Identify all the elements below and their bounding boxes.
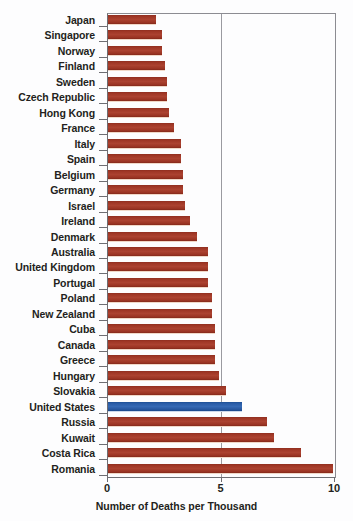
bar — [108, 340, 215, 350]
category-label: Spain — [0, 153, 95, 166]
bar — [108, 77, 167, 87]
category-label: Greece — [0, 354, 95, 367]
y-axis-tick — [99, 413, 107, 414]
bar — [108, 355, 215, 365]
y-axis-tick — [99, 320, 107, 321]
y-axis-tick — [99, 57, 107, 58]
y-axis-tick — [99, 382, 107, 383]
y-axis-tick — [99, 258, 107, 259]
bar — [108, 15, 156, 25]
bar-row: Italy — [0, 137, 353, 153]
category-label: Costa Rica — [0, 447, 95, 460]
bar — [108, 46, 162, 56]
bar-row: Poland — [0, 291, 353, 307]
bar-row: United States — [0, 400, 353, 416]
bar-row: Kuwait — [0, 431, 353, 447]
bar-row: Canada — [0, 338, 353, 354]
y-axis-tick — [99, 444, 107, 445]
bar — [108, 464, 333, 474]
bar — [108, 371, 219, 381]
bar — [108, 139, 181, 149]
category-label: Slovakia — [0, 385, 95, 398]
y-axis-tick — [99, 273, 107, 274]
bar-row: Sweden — [0, 75, 353, 91]
category-label: Canada — [0, 339, 95, 352]
category-label: Poland — [0, 292, 95, 305]
bar-row: Australia — [0, 245, 353, 261]
y-axis-tick — [99, 212, 107, 213]
y-axis-tick — [99, 289, 107, 290]
bar-row: New Zealand — [0, 307, 353, 323]
bar-highlighted — [108, 402, 242, 412]
bar-row: Germany — [0, 183, 353, 199]
category-label: Japan — [0, 14, 95, 27]
bar — [108, 170, 183, 180]
y-axis-tick — [99, 88, 107, 89]
y-axis-tick — [99, 26, 107, 27]
bar — [108, 108, 169, 118]
x-axis-title: Number of Deaths per Thousand — [0, 500, 353, 512]
category-label: Portugal — [0, 277, 95, 290]
category-label: Finland — [0, 60, 95, 73]
category-label: New Zealand — [0, 308, 95, 321]
bar — [108, 386, 226, 396]
bar-row: Slovakia — [0, 384, 353, 400]
bar — [108, 247, 208, 257]
category-label: United Kingdom — [0, 261, 95, 274]
y-axis-tick — [99, 475, 107, 476]
y-axis-tick — [99, 41, 107, 42]
category-label: Russia — [0, 416, 95, 429]
bar — [108, 185, 183, 195]
category-label: Belgium — [0, 169, 95, 182]
bar-row: Belgium — [0, 168, 353, 184]
bar — [108, 216, 190, 226]
bar-row: Hungary — [0, 369, 353, 385]
bar — [108, 324, 215, 334]
bar-row: Costa Rica — [0, 446, 353, 462]
y-axis-tick — [99, 134, 107, 135]
y-axis-tick — [99, 335, 107, 336]
y-axis-tick — [99, 397, 107, 398]
bar-row: Japan — [0, 13, 353, 29]
y-axis-tick — [99, 72, 107, 73]
x-tick-label: 10 — [314, 482, 353, 494]
category-label: Cuba — [0, 323, 95, 336]
y-axis-tick — [99, 243, 107, 244]
bar — [108, 262, 208, 272]
y-axis-tick — [99, 366, 107, 367]
y-axis-tick — [99, 103, 107, 104]
bar-row: Greece — [0, 353, 353, 369]
bar-chart: JapanSingaporeNorwayFinlandSwedenCzech R… — [0, 0, 353, 521]
y-axis-tick — [99, 304, 107, 305]
bar-row: Russia — [0, 415, 353, 431]
category-label: France — [0, 122, 95, 135]
category-label: Hong Kong — [0, 107, 95, 120]
category-label: Kuwait — [0, 432, 95, 445]
bar-row: Ireland — [0, 214, 353, 230]
y-axis-tick — [99, 165, 107, 166]
bar-row: Cuba — [0, 322, 353, 338]
bar — [108, 433, 274, 443]
bar — [108, 278, 208, 288]
y-axis-tick — [99, 227, 107, 228]
category-label: United States — [0, 401, 95, 414]
bar — [108, 92, 167, 102]
bar — [108, 30, 162, 40]
bar-row: Finland — [0, 59, 353, 75]
category-label: Sweden — [0, 76, 95, 89]
category-label: Czech Republic — [0, 91, 95, 104]
bar-row: United Kingdom — [0, 260, 353, 276]
bar-row: Romania — [0, 462, 353, 478]
y-axis-tick — [99, 150, 107, 151]
y-axis-tick — [99, 181, 107, 182]
category-label: Germany — [0, 184, 95, 197]
bar — [108, 61, 165, 71]
bar-row: Denmark — [0, 230, 353, 246]
x-tick-label: 5 — [201, 482, 241, 494]
category-label: Italy — [0, 138, 95, 151]
bar — [108, 293, 212, 303]
category-label: Australia — [0, 246, 95, 259]
category-label: Denmark — [0, 231, 95, 244]
y-axis-tick — [99, 428, 107, 429]
bar — [108, 448, 301, 458]
